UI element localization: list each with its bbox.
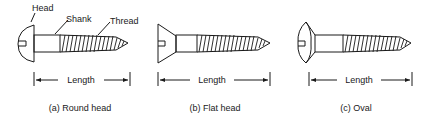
caption-oval: (c) Oval xyxy=(340,103,372,113)
length-label-c: Length xyxy=(345,75,373,85)
flat-head-screw: Length (b) Flat head xyxy=(158,24,270,113)
screw-types-diagram: Head Shank Thread Length (a) Round head … xyxy=(0,0,431,124)
length-label-a: Length xyxy=(67,75,95,85)
oval-head-screw: Length (c) Oval xyxy=(298,22,412,113)
shank-label: Shank xyxy=(66,14,92,24)
thread-label: Thread xyxy=(110,16,139,26)
round-head-screw: Head Shank Thread Length (a) Round head xyxy=(18,3,139,113)
head-label: Head xyxy=(32,3,54,13)
length-label-b: Length xyxy=(198,75,226,85)
caption-flat-head: (b) Flat head xyxy=(189,103,240,113)
caption-round-head: (a) Round head xyxy=(49,103,112,113)
